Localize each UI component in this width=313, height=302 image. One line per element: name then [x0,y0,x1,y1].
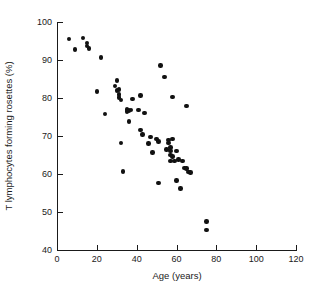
data-point [138,93,142,97]
data-point [204,228,208,232]
data-point [150,150,154,154]
data-point [156,181,160,185]
data-point [148,135,152,139]
data-point [180,159,184,163]
data-point [117,87,121,91]
data-point [115,78,119,82]
data-point [178,186,182,190]
data-points-layer [0,0,313,302]
data-point [158,63,162,67]
data-point [130,97,134,101]
data-point [204,219,208,223]
data-point [127,119,131,123]
data-point [129,108,133,112]
data-point [67,37,71,41]
data-point [119,141,123,145]
data-point [73,47,77,51]
data-point [121,169,125,173]
scatter-plot-figure: 020406080100120 405060708090100 Age (yea… [0,0,313,302]
data-point [142,111,146,115]
x-axis-title: Age (years) [152,270,201,281]
data-point [136,108,140,112]
data-point [119,98,123,102]
data-point [99,55,103,59]
data-point [156,139,160,143]
data-point [146,141,150,145]
data-point [184,104,188,108]
data-point [174,149,178,153]
data-point [87,46,91,50]
data-point [174,178,178,182]
y-axis-title: T lymphocytes forming rosettes (%) [3,61,14,210]
data-point [162,75,166,79]
data-point [95,89,99,93]
data-point [170,95,174,99]
data-point [103,112,107,116]
data-point [170,137,174,141]
data-point [188,170,192,174]
data-point [140,132,144,136]
data-point [81,36,85,40]
